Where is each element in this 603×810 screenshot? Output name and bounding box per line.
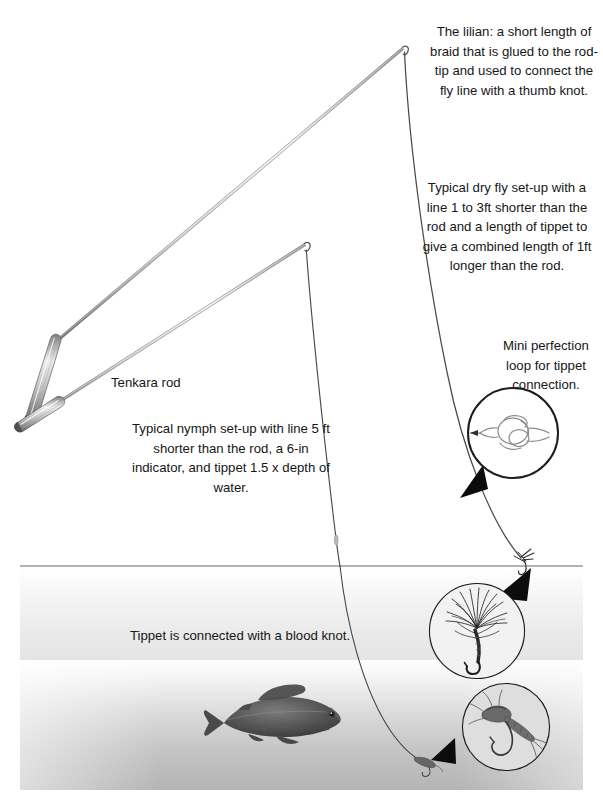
lilian-lower (304, 242, 310, 251)
tenkara-rod-dry-fly (25, 46, 408, 423)
perfection-loop-knot-inset (460, 388, 558, 498)
tenkara-diagram: The lilian: a short length of braid that… (0, 0, 603, 810)
callout-dry-fly-setup: Typical dry fly set-up with a line 1 to … (416, 178, 598, 276)
lilian-upper (403, 46, 409, 55)
callout-perfection-loop: Mini perfection loop for tippet connecti… (492, 336, 600, 395)
callout-blood-knot: Tippet is connected with a blood knot. (124, 626, 356, 646)
nymph-line (306, 250, 340, 566)
callout-tenkara-rod-label: Tenkara rod (111, 373, 241, 393)
nymph-indicator (334, 535, 338, 545)
diagram-canvas (0, 0, 603, 810)
dry-fly-line (405, 52, 522, 558)
callout-nymph-setup: Typical nymph set-up with line 5 ft shor… (131, 419, 331, 497)
callout-lilian: The lilian: a short length of braid that… (430, 22, 598, 100)
